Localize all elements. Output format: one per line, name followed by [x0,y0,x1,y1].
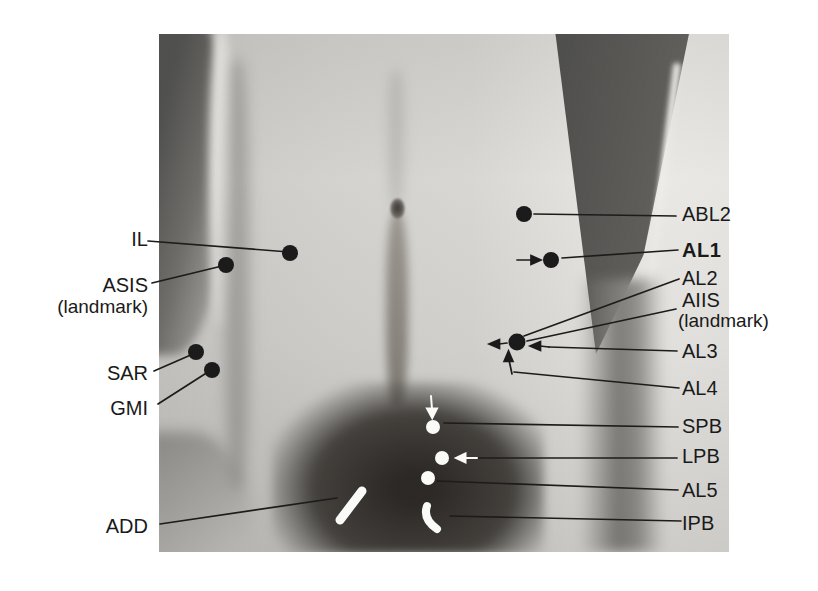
spb-dot [426,420,440,434]
leader-al5 [437,481,678,490]
label-al2: AL2 [682,267,814,289]
label-aiis: AIIS [682,289,814,311]
label-lpb: LPB [682,445,814,467]
leader-add [160,498,337,524]
leader-al3 [549,347,677,351]
label-gmi: GMI [30,397,148,419]
label-add: ADD [30,515,148,537]
label-abl2: ABL2 [682,203,814,225]
leader-asis [152,266,222,283]
leader-il [148,241,289,252]
al5-dot [421,471,435,485]
label-al3: AL3 [682,340,814,362]
leader-sar [154,354,193,371]
leader-spb [444,423,678,427]
spb-pointer-arrow [427,396,437,418]
label-al4: AL4 [682,377,814,399]
figure-page: IL ASIS (landmark) SAR GMI ADD ABL2 AL1 … [0,0,818,591]
label-al5: AL5 [682,479,814,501]
sar-dot [188,344,204,360]
label-asis-landmark: (landmark) [30,296,148,318]
aiis-bottom-pointer-arrow [504,351,513,374]
asis-dot [218,257,234,273]
label-asis: ASIS [30,274,148,296]
aiis-dot [509,334,526,351]
aiis-right-pointer-arrow [530,342,549,351]
al1-dot [543,252,559,268]
lpb-dot [435,451,449,465]
ipb-stripe-marker [426,506,437,529]
leader-ipb [450,516,681,521]
al1-pointer-arrow [517,256,541,265]
add-stripe-marker [340,491,362,520]
label-ipb: IPB [682,512,814,534]
aiis-left-pointer-arrow [489,340,507,349]
lpb-pointer-arrow [456,454,477,463]
label-aiis-landmark: (landmark) [678,310,810,332]
leader-al1 [562,250,678,258]
label-sar: SAR [30,362,148,384]
gmi-dot [204,362,220,378]
leader-aiis [527,309,676,341]
abl2-dot [516,206,532,222]
label-il: IL [30,228,148,250]
label-spb: SPB [682,415,814,437]
il-dot [282,245,298,261]
leader-al4 [514,372,679,388]
leader-gmi [158,372,208,404]
leader-al2 [524,279,679,336]
label-al1: AL1 [682,239,814,261]
leader-abl2 [534,214,676,216]
